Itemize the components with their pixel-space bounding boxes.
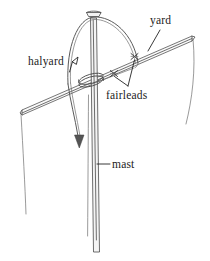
left-brace-line	[21, 114, 26, 214]
yard-spar	[20, 36, 195, 115]
yard-center-edge	[22, 39, 192, 114]
right-brace-line	[186, 39, 194, 124]
masthead-truck	[87, 13, 102, 17]
label-fairleads: fairleads	[106, 89, 148, 101]
label-yard: yard	[150, 14, 171, 27]
fairleads-leader-inner	[115, 77, 129, 87]
halyard-arch-outer	[68, 17, 138, 84]
mast-rear-edge	[88, 95, 89, 236]
label-mast: mast	[112, 158, 135, 170]
halyard-arch-inner	[70, 19, 135, 83]
yard-leader-line	[148, 30, 160, 51]
mast-spar	[87, 11, 102, 252]
halyard-leader-tick	[73, 57, 79, 64]
yard-right-tip	[192, 36, 195, 41]
rigging-diagram: halyard yard fairleads mast	[0, 0, 210, 261]
halyard-arrow-head	[75, 135, 85, 148]
diagram-canvas: halyard yard fairleads mast	[0, 0, 210, 261]
label-halyard: halyard	[28, 55, 64, 68]
